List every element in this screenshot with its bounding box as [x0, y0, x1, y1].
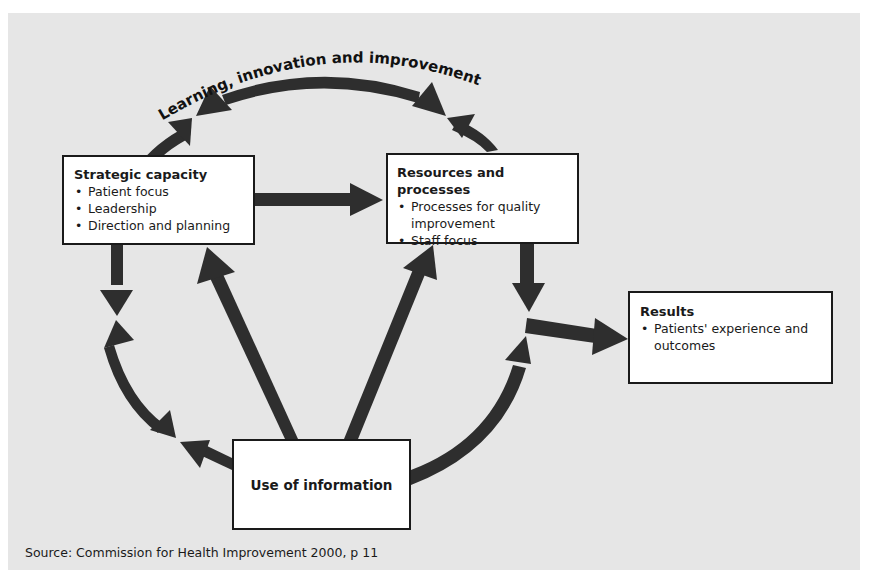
to-results-shaft: [525, 318, 597, 343]
strategic-down-shaft: [111, 245, 123, 285]
node-item: Patients' experience and outcomes: [640, 320, 821, 354]
info-to-right-arc: [411, 365, 526, 485]
node-item: Direction and planning: [74, 217, 243, 234]
arrowhead-to-results: [592, 318, 628, 355]
node-item: Patient focus: [74, 183, 243, 200]
resources-down-shaft: [520, 244, 534, 286]
node-title: Results: [640, 303, 821, 320]
left-lower-arc: [104, 345, 165, 433]
strategic-to-resources-shaft: [255, 193, 355, 206]
node-title: Use of information: [251, 477, 393, 493]
node-item-list: Patients' experience and outcomes: [640, 320, 821, 354]
node-title: Resources and processes: [397, 164, 568, 198]
node-item-list: Processes for quality improvement Staff …: [397, 198, 568, 249]
source-caption: Source: Commission for Health Improvemen…: [25, 545, 378, 560]
arrowhead-resources-down: [512, 283, 545, 312]
node-resources-and-processes: Resources and processes Processes for qu…: [386, 153, 579, 244]
node-item-list: Patient focus Leadership Direction and p…: [74, 183, 243, 234]
node-title: Strategic capacity: [74, 166, 243, 183]
info-to-strategic-shaft: [210, 272, 298, 439]
node-item: Processes for quality improvement: [397, 198, 568, 232]
node-use-of-information: Use of information: [232, 439, 411, 530]
node-item: Leadership: [74, 200, 243, 217]
arrowhead-left-lower-up: [104, 320, 134, 348]
node-item: Staff focus: [397, 232, 568, 249]
node-strategic-capacity: Strategic capacity Patient focus Leaders…: [62, 155, 255, 245]
arrowhead-to-resources: [350, 183, 383, 216]
node-results: Results Patients' experience and outcome…: [628, 291, 833, 384]
arrowhead-info-right: [505, 336, 531, 364]
arrowhead-strategic-down: [100, 290, 133, 316]
info-to-resources-shaft: [344, 267, 426, 439]
